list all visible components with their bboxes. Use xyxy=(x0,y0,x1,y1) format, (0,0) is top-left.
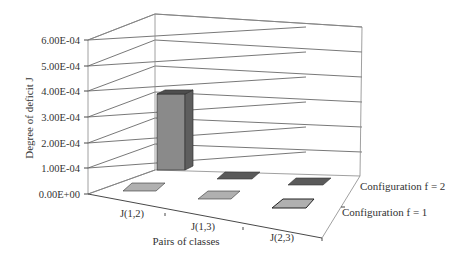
series-label-f2: Configuration f = 2 xyxy=(360,180,445,192)
x-tick-label: J(2,3) xyxy=(270,232,295,244)
bar-j23-f2 xyxy=(288,178,331,185)
bar-j23-f1 xyxy=(272,199,314,208)
x-tick-label: J(1,2) xyxy=(120,208,145,220)
y-tick-label: 0.00E+00 xyxy=(39,189,80,200)
y-axis-ticks xyxy=(84,40,88,194)
chart: 6.00E-04 5.00E-04 4.00E-04 3.00E-04 2.00… xyxy=(0,0,468,257)
bar-j13-f1 xyxy=(198,191,240,199)
x-tick-label: J(1,3) xyxy=(191,221,216,233)
y-tick-label: 5.00E-04 xyxy=(41,61,81,72)
bar-j12-f1 xyxy=(123,183,165,191)
y-tick-label: 3.00E-04 xyxy=(41,112,81,123)
y-tick-label: 4.00E-04 xyxy=(41,86,81,97)
y-axis-title: Degree of deficit J xyxy=(23,77,35,159)
y-tick-label: 1.00E-04 xyxy=(41,163,81,174)
axes-frame xyxy=(88,14,362,238)
bar-j13-f2 xyxy=(217,172,260,179)
x-axis-title: Pairs of classes xyxy=(152,235,219,247)
y-tick-label: 6.00E-04 xyxy=(41,35,81,46)
bar-j12-f2 xyxy=(157,90,193,170)
series-label-f1: Configuration f = 1 xyxy=(342,206,427,218)
y-tick-label: 2.00E-04 xyxy=(41,138,81,149)
